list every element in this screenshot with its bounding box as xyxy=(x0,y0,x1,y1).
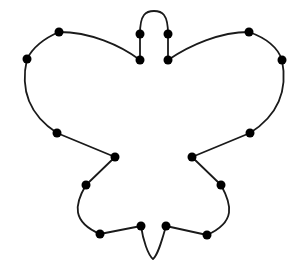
dot-point xyxy=(136,30,145,39)
butterfly-outline xyxy=(25,11,284,259)
dot-point xyxy=(278,56,287,65)
butterfly-dot-diagram xyxy=(0,0,304,267)
dot-point xyxy=(111,153,120,162)
dot-point xyxy=(137,222,146,231)
dot-point xyxy=(53,129,62,138)
dot-point xyxy=(203,231,212,240)
dot-point xyxy=(23,55,32,64)
dot-point xyxy=(162,222,171,231)
dot-point xyxy=(96,230,105,239)
dot-point xyxy=(55,28,64,37)
dot-point xyxy=(164,30,173,39)
connect-dots-group xyxy=(23,28,287,240)
dot-point xyxy=(245,28,254,37)
dot-point xyxy=(136,56,145,65)
dot-point xyxy=(246,129,255,138)
dot-point xyxy=(82,181,91,190)
dot-point xyxy=(164,56,173,65)
dot-point xyxy=(217,181,226,190)
dot-point xyxy=(188,153,197,162)
